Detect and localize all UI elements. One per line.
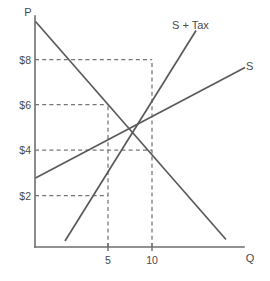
y-tick-labels-group: $8 $6 $4 $2 <box>19 54 31 202</box>
x-axis-title: Q <box>246 252 255 264</box>
supply-demand-tax-chart: P Q S + Tax S <box>0 0 270 281</box>
curves-group <box>36 22 246 242</box>
y-axis-title: P <box>24 6 31 18</box>
supply-plus-tax-label: S + Tax <box>172 19 209 31</box>
y-tick-label-8: $8 <box>19 54 31 66</box>
y-tick-label-4: $4 <box>19 144 31 156</box>
axes-group <box>35 16 244 247</box>
y-tick-label-6: $6 <box>19 99 31 111</box>
x-tick-label-5: 5 <box>105 254 111 266</box>
x-tick-label-10: 10 <box>146 254 158 266</box>
chart-canvas: P Q S + Tax S <box>0 0 270 281</box>
demand-curve <box>36 22 227 240</box>
supply-label: S <box>246 60 253 72</box>
supply-plus-tax-curve <box>65 31 196 242</box>
supply-curve <box>36 68 246 179</box>
y-tick-label-2: $2 <box>19 190 31 202</box>
